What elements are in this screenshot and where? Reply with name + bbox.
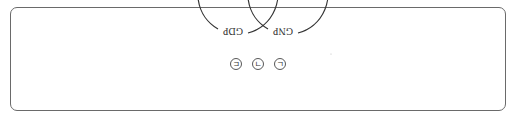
gdp-label: GDP xyxy=(223,26,243,37)
speck-dot xyxy=(330,53,331,54)
region-label-intersection: ㄱ xyxy=(255,59,262,68)
gnp-label: GNP xyxy=(273,26,293,37)
venn-diagram: GNP GDP ㄴ ㄱ ㄷ xyxy=(0,0,516,124)
region-label-gdp-only: ㄷ xyxy=(233,59,240,68)
region-label-gnp-only: ㄴ xyxy=(277,59,284,68)
